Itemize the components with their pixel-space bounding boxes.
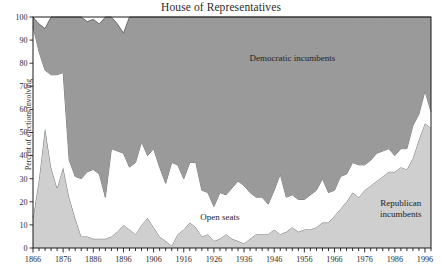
x-tick-label: 1996 <box>417 255 433 264</box>
y-tick-label: 100 <box>16 13 28 22</box>
y-tick-label: 70 <box>20 82 28 91</box>
stacked-area-plot: 0102030405060708090100186618761886189619… <box>0 0 442 280</box>
y-tick-label: 30 <box>20 175 28 184</box>
x-tick-label: 1976 <box>356 255 372 264</box>
x-tick-label: 1986 <box>387 255 403 264</box>
annotation-democratic-incumbents: Democratic incumbents <box>249 53 335 63</box>
annotation-republican-incumbents-line1: Republican <box>380 198 421 208</box>
y-tick-label: 50 <box>20 128 28 137</box>
x-tick-label: 1966 <box>326 255 342 264</box>
x-tick-label: 1946 <box>266 255 282 264</box>
y-tick-label: 40 <box>20 151 28 160</box>
x-tick-label: 1916 <box>176 255 192 264</box>
chart-container: House of Representatives Percent of elec… <box>0 0 442 280</box>
y-tick-label: 0 <box>24 244 28 253</box>
x-tick-label: 1886 <box>85 255 101 264</box>
y-tick-label: 20 <box>20 198 28 207</box>
annotation-open-seats: Open seats <box>200 212 240 222</box>
x-tick-label: 1876 <box>55 255 71 264</box>
x-tick-label: 1906 <box>145 255 161 264</box>
y-tick-label: 90 <box>20 36 28 45</box>
y-tick-label: 80 <box>20 59 28 68</box>
x-tick-label: 1956 <box>296 255 312 264</box>
x-tick-label: 1896 <box>115 255 131 264</box>
annotation-republican-incumbents-line2: incumbents <box>380 209 422 219</box>
x-tick-label: 1926 <box>206 255 222 264</box>
y-tick-label: 60 <box>20 105 28 114</box>
x-tick-label: 1936 <box>236 255 252 264</box>
x-tick-label: 1866 <box>25 255 41 264</box>
y-tick-label: 10 <box>20 221 28 230</box>
